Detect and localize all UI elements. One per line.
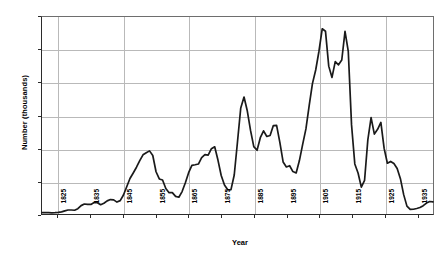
x-tick-label: 1935 [421,189,428,219]
x-tick-mark [352,215,353,218]
x-tick-mark [254,215,255,218]
data-line-svg [42,17,433,214]
x-tick-label: 1915 [355,189,362,219]
x-tick-mark [123,215,124,218]
x-tick-mark [287,215,288,218]
x-tick-label: 1855 [159,189,166,219]
y-tick-mark [38,49,41,50]
x-tick-mark [156,215,157,218]
x-tick-mark [90,215,91,218]
y-tick-mark [38,182,41,183]
plot-area [41,16,434,215]
data-series-line [42,29,433,213]
y-tick-mark [38,82,41,83]
x-tick-label: 1825 [60,189,67,219]
y-tick-mark [38,16,41,17]
x-tick-label: 1875 [224,189,231,219]
x-tick-mark [418,215,419,218]
immigration-line-chart: Number (thousands) 020040060080010001200… [0,0,448,265]
x-tick-mark [319,215,320,218]
y-tick-mark [38,149,41,150]
x-tick-label: 1865 [191,189,198,219]
x-tick-mark [221,215,222,218]
x-tick-label: 1845 [126,189,133,219]
x-tick-label: 1895 [290,189,297,219]
y-tick-mark [38,215,41,216]
x-tick-mark [385,215,386,218]
y-axis-title: Number (thousands) [20,43,29,183]
x-tick-mark [188,215,189,218]
x-axis-title: Year [40,238,440,247]
y-tick-mark [38,116,41,117]
x-tick-label: 1885 [257,189,264,219]
x-tick-label: 1905 [322,189,329,219]
x-tick-label: 1925 [388,189,395,219]
x-tick-mark [57,215,58,218]
x-tick-label: 1835 [93,189,100,219]
